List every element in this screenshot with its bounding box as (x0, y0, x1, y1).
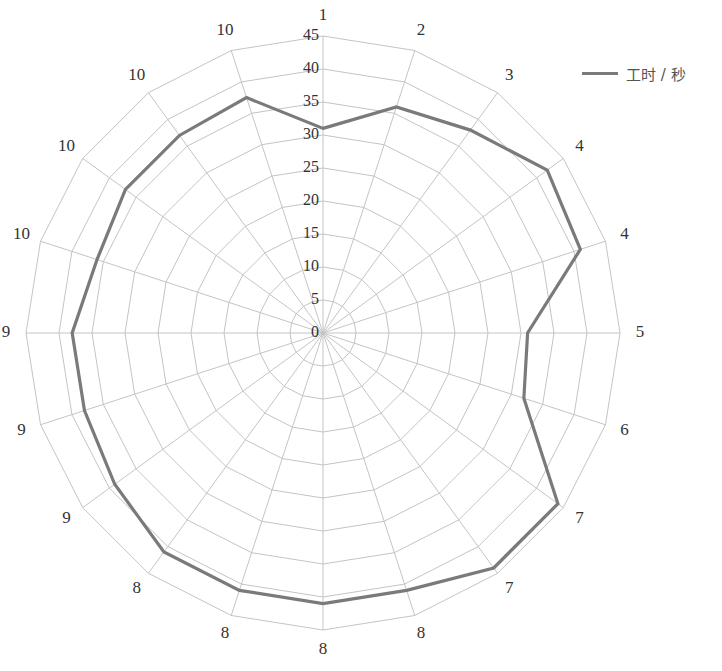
legend-line-swatch (582, 72, 618, 75)
radial-tick-label: 10 (303, 257, 319, 274)
category-label: 7 (505, 578, 514, 597)
axis-spoke (41, 241, 323, 333)
axis-spoke (323, 333, 605, 425)
axis-spoke (323, 158, 563, 333)
category-label: 10 (13, 224, 30, 243)
axis-spoke (148, 333, 323, 573)
radial-tick-label: 0 (311, 323, 319, 340)
axis-spoke (323, 333, 498, 573)
category-label: 7 (575, 508, 584, 527)
category-label: 8 (417, 623, 426, 642)
category-label: 4 (575, 136, 584, 155)
category-label: 6 (620, 420, 629, 439)
category-label: 9 (17, 420, 26, 439)
category-label: 9 (62, 508, 71, 527)
legend-label: 工时 / 秒 (626, 63, 686, 84)
radial-tick-label: 40 (303, 59, 319, 76)
axis-spoke (323, 333, 415, 615)
axis-spoke (41, 333, 323, 425)
legend: 工时 / 秒 (582, 63, 686, 84)
category-label: 10 (58, 136, 75, 155)
radial-tick-label: 25 (303, 158, 319, 175)
radial-tick-labels: 051015202530354045 (303, 26, 319, 340)
radial-tick-label: 15 (303, 224, 319, 241)
axis-spoke (323, 93, 498, 333)
category-label: 1 (319, 5, 328, 24)
radial-tick-label: 5 (311, 290, 319, 307)
radar-chart: 051015202530354045 123445677888899910101… (0, 0, 722, 671)
category-label: 4 (620, 224, 629, 243)
axis-spoke (148, 93, 323, 333)
axis-spoke (231, 333, 323, 615)
axis-spoke (323, 241, 605, 333)
category-label: 2 (417, 20, 426, 39)
grid-spokes (26, 36, 620, 630)
category-label: 5 (636, 322, 645, 341)
radial-tick-label: 35 (303, 92, 319, 109)
radial-tick-label: 45 (303, 26, 319, 43)
axis-spoke (323, 51, 415, 333)
category-label: 9 (2, 322, 11, 341)
axis-spoke (83, 158, 323, 333)
category-label: 10 (217, 20, 234, 39)
category-label: 10 (128, 65, 145, 84)
radial-tick-label: 20 (303, 191, 319, 208)
category-label: 8 (221, 623, 230, 642)
category-label: 8 (319, 639, 328, 658)
axis-spoke (83, 333, 323, 508)
category-label: 8 (132, 578, 141, 597)
category-label: 3 (505, 65, 514, 84)
